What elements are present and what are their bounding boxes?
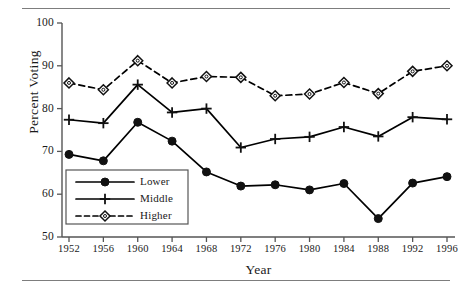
y-tick-label: 90 [22,59,54,71]
x-axis-label: Year [62,262,455,278]
legend-label-middle: Middle [140,192,173,204]
plot-area: Percent Voting Year 5060708090100 195219… [0,0,462,288]
x-tick-label: 1996 [424,243,462,254]
legend-label-lower: Lower [140,175,170,187]
y-tick-label: 100 [22,16,54,28]
figure: Percent Voting Year 5060708090100 195219… [0,0,462,288]
series-higher [64,56,452,101]
legend-label-higher: Higher [140,209,172,221]
y-tick-label: 60 [22,187,54,199]
y-tick-label: 70 [22,144,54,156]
series-middle [64,79,452,152]
y-tick-label: 50 [22,230,54,242]
y-tick-label: 80 [22,102,54,114]
